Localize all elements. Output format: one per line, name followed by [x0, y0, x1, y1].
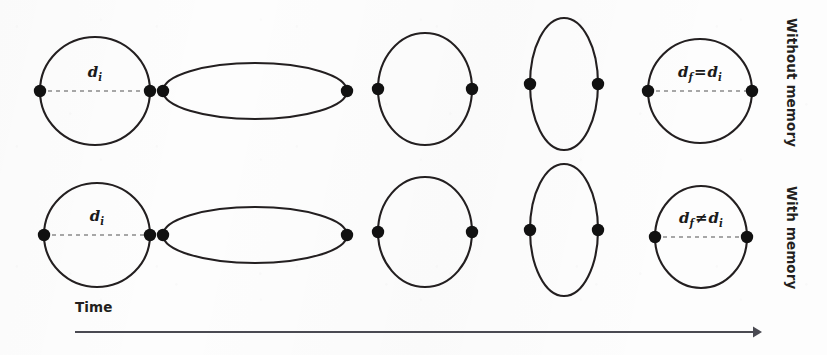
- marker-dot-left: [38, 229, 50, 241]
- shape-top-1-initial: [34, 37, 156, 145]
- loop-outline: [163, 63, 347, 119]
- loop-outline: [530, 18, 598, 150]
- loop-outline: [378, 33, 472, 145]
- marker-dot-right: [144, 229, 156, 241]
- marker-dot-left: [157, 229, 169, 241]
- marker-dot-right: [592, 78, 604, 90]
- marker-dot-left: [642, 85, 654, 97]
- shape-bottom-1-initial: [38, 183, 156, 287]
- marker-dot-left: [157, 85, 169, 97]
- loop-outline: [530, 164, 598, 296]
- not-equals-operator: ≠: [694, 209, 709, 227]
- shape-top-2-stretched: [157, 63, 353, 119]
- time-axis-arrowhead: [753, 327, 762, 338]
- row-with-memory: [38, 164, 753, 296]
- loop-outline: [378, 177, 472, 287]
- time-axis: [75, 327, 762, 338]
- row-without-memory: [34, 18, 758, 150]
- marker-dot-left: [34, 85, 46, 97]
- row-label-with-memory: With memory: [784, 186, 800, 289]
- time-axis-label: Time: [75, 299, 112, 315]
- dimension-label-top-initial: dd_ii: [88, 63, 102, 83]
- marker-dot-left: [524, 78, 536, 90]
- shape-bottom-3-relaxed: [372, 177, 478, 287]
- row-label-without-memory: Without memory: [784, 18, 800, 147]
- dimension-label-bottom-final: df≠di: [679, 209, 723, 229]
- shape-top-4-compressed: [524, 18, 604, 150]
- marker-dot-right: [466, 83, 478, 95]
- marker-dot-right: [341, 85, 353, 97]
- marker-dot-left: [649, 231, 661, 243]
- loop-outline: [655, 186, 747, 288]
- shape-bottom-5-final: [649, 186, 753, 288]
- dimension-label-top-final: df=di: [678, 63, 722, 83]
- shape-top-3-relaxed: [372, 33, 478, 145]
- deformation-diagram: [0, 0, 827, 355]
- dimension-label-bottom-initial: di: [90, 207, 104, 227]
- marker-dot-left: [372, 226, 384, 238]
- marker-dot-right: [341, 229, 353, 241]
- marker-dot-right: [741, 231, 753, 243]
- marker-dot-left: [372, 83, 384, 95]
- marker-dot-right: [592, 224, 604, 236]
- equals-operator: =: [693, 63, 708, 81]
- marker-dot-right: [144, 85, 156, 97]
- marker-dot-right: [746, 85, 758, 97]
- figure-root: dd_ii df=di di df≠di Without memory With…: [0, 0, 827, 355]
- marker-dot-left: [524, 224, 536, 236]
- loop-outline: [163, 207, 347, 263]
- shape-top-5-final: [642, 39, 758, 143]
- shape-bottom-4-compressed: [524, 164, 604, 296]
- marker-dot-right: [466, 226, 478, 238]
- shape-bottom-2-stretched: [157, 207, 353, 263]
